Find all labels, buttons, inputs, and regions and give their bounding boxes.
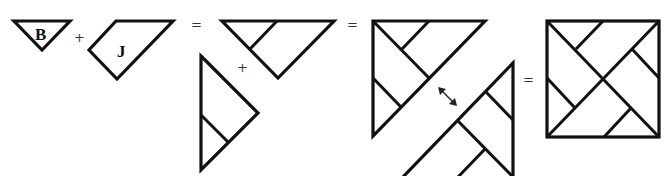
equals-operator-1: = — [191, 17, 202, 32]
inner-edge — [547, 78, 575, 108]
equals-operator-2: = — [347, 17, 358, 32]
composite-triangle-left — [201, 56, 258, 170]
inner-edge — [250, 21, 277, 49]
inner-edge — [458, 149, 485, 176]
piece-b-triangle: B — [14, 21, 70, 50]
inner-edge — [604, 108, 631, 137]
final-square — [547, 21, 659, 137]
inner-edge — [632, 49, 659, 78]
piece-j-parallelogram: J — [89, 21, 173, 79]
inner-edge — [201, 115, 229, 143]
piece-b-label: B — [35, 25, 46, 44]
piece-j-label: J — [117, 42, 126, 61]
rotated-composite-triangle — [402, 63, 513, 176]
plus-operator-2: + — [237, 60, 248, 75]
plus-operator-1: + — [74, 30, 85, 45]
inner-edge — [373, 78, 401, 107]
inner-edge — [402, 21, 429, 49]
equals-operator-3: = — [523, 72, 534, 87]
inner-edge — [486, 92, 513, 120]
inner-edge — [576, 21, 603, 49]
tangram-diagram: B + J = + = = — [0, 0, 666, 176]
double-arrow-icon — [438, 87, 457, 106]
large-composite-triangle — [373, 21, 485, 136]
